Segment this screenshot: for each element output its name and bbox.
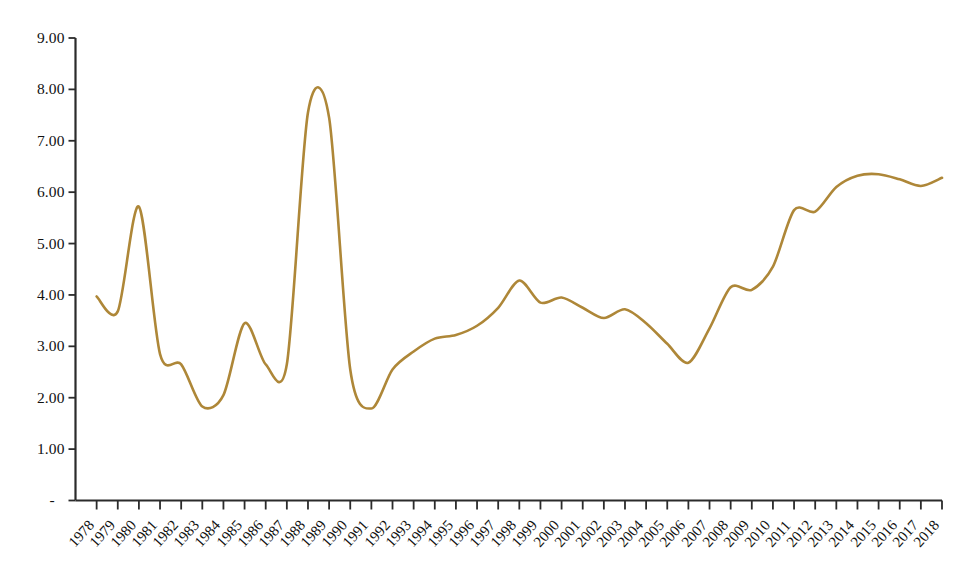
y-tick-label-zero: - xyxy=(50,492,55,508)
y-tick-label: 3.00 xyxy=(8,338,65,354)
line-chart: 1978197919801981198219831984198519861987… xyxy=(0,0,969,584)
y-tick-label: 2.00 xyxy=(8,390,65,406)
y-tick-label: 1.00 xyxy=(8,441,65,457)
y-tick-label: 4.00 xyxy=(8,287,65,303)
data-line-series-1 xyxy=(97,87,942,408)
y-tick-label: 6.00 xyxy=(8,184,65,200)
y-tick-label: 8.00 xyxy=(8,81,65,97)
y-tick-label: 9.00 xyxy=(8,30,65,46)
y-tick-label: 5.00 xyxy=(8,236,65,252)
y-tick-label: 7.00 xyxy=(8,133,65,149)
x-axis-ticks xyxy=(97,501,942,510)
chart-plot-area xyxy=(0,0,969,584)
axis-lines xyxy=(76,38,943,501)
